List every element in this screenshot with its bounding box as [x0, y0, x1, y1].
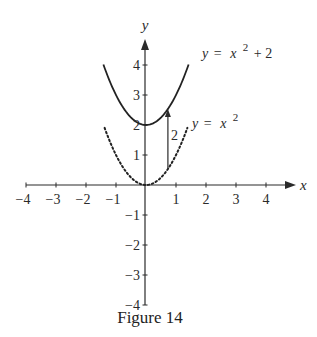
x-tick-label: −4	[16, 192, 31, 207]
curves	[103, 65, 188, 185]
x-axis-arrow-icon	[285, 181, 296, 189]
y-tick-label: 3	[133, 88, 140, 103]
x-tick-label: 3	[233, 192, 240, 207]
y-tick-label: −2	[125, 238, 140, 253]
y-tick-label: −3	[125, 268, 140, 283]
x-tick-label: 1	[173, 192, 180, 207]
y-tick-label: 1	[133, 148, 140, 163]
shift-amount-label: 2	[171, 128, 178, 143]
x-tick-label: 4	[263, 192, 270, 207]
x-axis-label: x	[299, 177, 307, 193]
axes	[26, 39, 296, 305]
x-tick-label: −3	[46, 192, 61, 207]
figure: −4−3−2−11234−4−3−2−11234 y x y = x 2 + 2…	[0, 0, 317, 337]
plot-area: −4−3−2−11234−4−3−2−11234 y x y = x 2 + 2…	[0, 0, 317, 337]
figure-caption: Figure 14	[117, 308, 183, 327]
y-axis-arrow-icon	[141, 39, 149, 50]
x-tick-label: 2	[203, 192, 210, 207]
x-tick-label: −1	[106, 192, 121, 207]
y-axis-label: y	[140, 17, 149, 33]
x-tick-label: −2	[76, 192, 91, 207]
y-tick-label: 4	[133, 58, 140, 73]
y-tick-label: −1	[125, 208, 140, 223]
equation-label-base: y = x 2	[190, 111, 238, 131]
y-tick-label: 2	[133, 118, 140, 133]
equation-label-shifted: y = x 2 + 2	[200, 39, 272, 61]
